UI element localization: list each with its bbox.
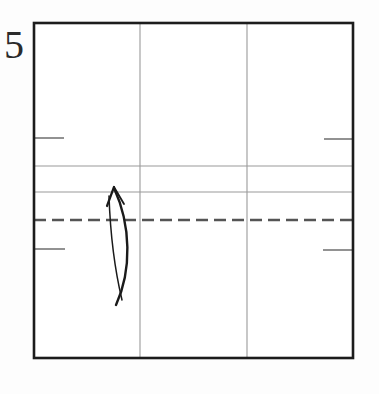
origami-diagram-canvas: 5 — [0, 0, 379, 394]
origami-step-figure: 5 — [0, 0, 379, 394]
step-number-label: 5 — [4, 22, 24, 67]
paper-surface — [34, 23, 353, 358]
